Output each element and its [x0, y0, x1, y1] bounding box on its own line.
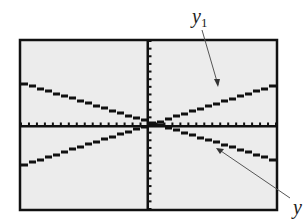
y-tick — [149, 55, 152, 57]
line-segment — [197, 137, 204, 140]
y-tick — [149, 208, 152, 210]
line-segment — [197, 108, 204, 111]
y-tick — [149, 116, 152, 118]
line-segment — [53, 154, 60, 157]
line-segment — [133, 128, 140, 131]
x-tick — [92, 123, 94, 126]
x-tick — [195, 123, 197, 126]
y1-label-subscript: 1 — [201, 15, 208, 30]
line-segment — [189, 110, 196, 113]
x-tick — [259, 123, 261, 126]
y1-label: y1 — [192, 6, 207, 29]
y-tick — [149, 101, 152, 103]
x-tick — [187, 123, 189, 126]
y-tick — [149, 177, 152, 179]
line-segment — [237, 95, 244, 98]
line-segment — [269, 85, 276, 88]
x-tick — [251, 123, 253, 126]
line-segment — [141, 119, 148, 122]
line-segment — [101, 138, 108, 141]
line-segment — [29, 85, 36, 88]
line-segment — [261, 88, 268, 91]
y-tick — [149, 78, 152, 80]
line-segment — [117, 112, 124, 115]
y-tick — [149, 48, 152, 50]
line-segment — [205, 139, 212, 142]
x-tick — [171, 123, 173, 126]
x-tick — [52, 123, 54, 126]
line-segment — [69, 148, 76, 151]
y2-label: y — [293, 197, 302, 217]
line-segment — [149, 122, 156, 125]
line-segment — [173, 115, 180, 118]
line-segment — [229, 146, 236, 149]
y-tick — [149, 86, 152, 88]
line-segment — [125, 131, 132, 134]
y-tick — [149, 170, 152, 172]
line-segment — [229, 98, 236, 101]
line-segment — [237, 149, 244, 152]
line-segment — [157, 124, 164, 127]
y-tick — [149, 93, 152, 95]
line-segment — [85, 143, 92, 146]
line-segment — [221, 144, 228, 147]
line-segment — [157, 121, 164, 124]
line-segment — [205, 105, 212, 108]
y2-label-base: y — [293, 196, 302, 218]
y-tick — [149, 63, 152, 65]
line-segment — [269, 159, 276, 162]
y-tick — [149, 147, 152, 149]
line-segment — [165, 127, 172, 130]
x-tick — [179, 123, 181, 126]
line-segment — [21, 83, 28, 86]
x-tick — [108, 123, 110, 126]
x-tick — [76, 123, 78, 126]
x-tick — [44, 123, 46, 126]
line-segment — [45, 156, 52, 159]
line-segment — [53, 93, 60, 96]
x-tick — [211, 123, 213, 126]
line-segment — [245, 151, 252, 154]
y-tick — [149, 139, 152, 141]
x-tick — [60, 123, 62, 126]
line-segment — [29, 161, 36, 164]
y-tick — [149, 40, 152, 42]
x-tick — [132, 123, 134, 126]
x-tick — [20, 123, 22, 126]
line-segment — [133, 117, 140, 120]
line-segment — [181, 132, 188, 135]
line-segment — [61, 151, 68, 154]
x-tick — [275, 123, 277, 126]
line-segment — [21, 164, 28, 167]
line-segment — [45, 90, 52, 93]
line-segment — [253, 90, 260, 93]
graph-screen — [0, 0, 303, 223]
x-tick — [28, 123, 30, 126]
line-segment — [141, 126, 148, 129]
line-segment — [77, 146, 84, 149]
line-segment — [117, 133, 124, 136]
y-tick — [149, 162, 152, 164]
line-segment — [77, 100, 84, 103]
y-tick — [149, 185, 152, 187]
x-tick — [116, 123, 118, 126]
x-tick — [219, 123, 221, 126]
x-tick — [203, 123, 205, 126]
x-tick — [68, 123, 70, 126]
calculator-graph-figure: y1 y — [0, 0, 303, 223]
line-segment — [93, 105, 100, 108]
y-tick — [149, 200, 152, 202]
line-segment — [85, 102, 92, 105]
y-tick — [149, 109, 152, 111]
line-segment — [213, 103, 220, 106]
x-tick — [84, 123, 86, 126]
line-segment — [221, 100, 228, 103]
x-tick — [100, 123, 102, 126]
x-tick — [267, 123, 269, 126]
line-segment — [189, 134, 196, 137]
x-tick — [124, 123, 126, 126]
y1-label-base: y — [192, 5, 201, 27]
line-segment — [125, 115, 132, 118]
y-tick — [149, 193, 152, 195]
x-tick — [235, 123, 237, 126]
